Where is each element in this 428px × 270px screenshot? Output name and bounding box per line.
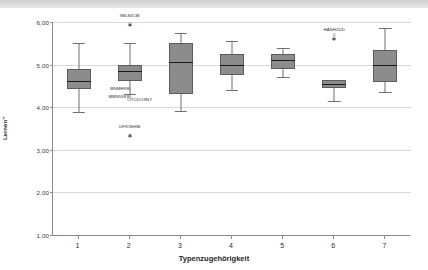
outlier-case-label: IML84CM xyxy=(120,13,140,18)
x-axis-title: Typenzugehörigkeit xyxy=(0,254,428,263)
boxplot-box[interactable] xyxy=(258,22,309,235)
x-tick-label: 6 xyxy=(331,242,335,249)
y-tick-label: 5,00 xyxy=(37,61,49,68)
box-iqr xyxy=(271,54,295,69)
boxplot-box[interactable] xyxy=(53,22,104,235)
x-tick-mark xyxy=(78,236,79,239)
x-tick-mark xyxy=(333,236,334,239)
whisker-lower xyxy=(180,94,181,112)
cap-lower xyxy=(175,111,187,112)
box-iqr xyxy=(67,69,91,89)
cap-lower xyxy=(72,112,84,113)
x-tick-mark xyxy=(384,236,385,239)
x-tick-label: 7 xyxy=(382,242,386,249)
box-iqr xyxy=(373,50,397,82)
y-tick-label: 6,00 xyxy=(37,19,49,26)
whisker-upper xyxy=(180,33,181,44)
x-tick-label: 5 xyxy=(280,242,284,249)
case-label: OTCDO3NT xyxy=(127,97,152,102)
x-tick-mark xyxy=(129,236,130,239)
whisker-lower xyxy=(231,75,232,90)
median-line xyxy=(271,60,295,61)
cap-upper xyxy=(175,33,187,34)
median-line xyxy=(169,62,193,63)
outlier-case-label: HASH2DDC xyxy=(323,27,345,37)
median-line xyxy=(220,65,244,66)
whisker-lower xyxy=(385,82,386,93)
y-tick-label: 3,00 xyxy=(37,146,49,153)
y-tick-label: 1,00 xyxy=(37,232,49,239)
outlier-group: ∗DFK36HM xyxy=(104,22,155,235)
cap-lower xyxy=(277,77,289,78)
x-tick-label: 3 xyxy=(178,242,182,249)
outlier-marker[interactable]: ∗ xyxy=(127,131,133,138)
x-tick-mark xyxy=(180,236,181,239)
case-label: BNMRKR, xyxy=(110,86,131,91)
x-tick-label: 2 xyxy=(127,242,131,249)
box-iqr xyxy=(169,43,193,93)
boxplot-box[interactable] xyxy=(360,22,411,235)
outlier-case-label: DFK36HM xyxy=(119,124,140,129)
x-tick-label: 4 xyxy=(229,242,233,249)
x-axis: 1234567 xyxy=(52,235,410,236)
cap-lower xyxy=(379,92,391,93)
cap-lower xyxy=(226,90,238,91)
cap-upper xyxy=(379,28,391,29)
median-line xyxy=(67,81,91,82)
chart-canvas: Mittelwertskala "Selbstständiges und ver… xyxy=(0,8,428,270)
cap-upper xyxy=(277,48,289,49)
y-tick-label: 2,00 xyxy=(37,189,49,196)
whisker-upper xyxy=(385,28,386,49)
boxplot-box[interactable] xyxy=(206,22,257,235)
plot-area: 1,002,003,004,005,006,00∗IML84CM∗DFK36HM… xyxy=(52,22,410,235)
y-axis-title-text: Mittelwertskala "Selbstständiges und ver… xyxy=(0,22,9,235)
whisker-upper xyxy=(231,41,232,54)
cap-upper xyxy=(226,41,238,42)
boxplot-box[interactable] xyxy=(155,22,206,235)
y-axis-title: Mittelwertskala "Selbstständiges und ver… xyxy=(0,22,8,235)
y-tick-label: 4,00 xyxy=(37,104,49,111)
x-tick-mark xyxy=(231,236,232,239)
median-line xyxy=(373,65,397,66)
whisker-upper xyxy=(78,43,79,69)
whisker-lower xyxy=(78,89,79,112)
cap-upper xyxy=(72,43,84,44)
outlier-group: ∗HASH2DDC xyxy=(309,22,360,235)
whisker-lower xyxy=(283,69,284,78)
x-tick-mark xyxy=(282,236,283,239)
x-tick-label: 1 xyxy=(76,242,80,249)
